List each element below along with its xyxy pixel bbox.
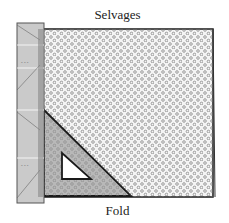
fabric-diagram: - - - - - - bbox=[0, 0, 229, 223]
ruler: - - - - - - bbox=[17, 23, 44, 203]
svg-text:- - -: - - - bbox=[21, 163, 29, 168]
svg-text:- - -: - - - bbox=[21, 60, 29, 65]
